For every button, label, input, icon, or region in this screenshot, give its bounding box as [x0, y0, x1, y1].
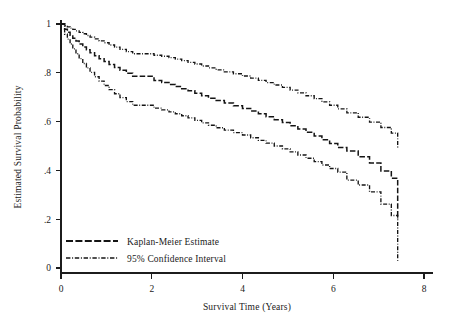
y-tick-label: .6 [44, 117, 51, 127]
y-axis-ticks: 0.2.4.6.81 [44, 19, 61, 273]
legend-label: 95% Confidence Interval [127, 254, 226, 264]
x-tick-label: 4 [240, 284, 245, 294]
survival-curve-figure: 0.2.4.6.81 Estimated Survival Probabilit… [0, 0, 449, 323]
legend-label: Kaplan-Meier Estimate [127, 237, 219, 247]
confidence-interval-curve [61, 24, 398, 148]
x-axis-group: 02468 Survival Time (Years) [59, 273, 433, 313]
x-tick-label: 2 [149, 284, 154, 294]
curve-group [61, 24, 398, 261]
x-tick-label: 6 [331, 284, 336, 294]
chart-legend: Kaplan-Meier Estimate95% Confidence Inte… [66, 237, 226, 264]
y-tick-label: .2 [44, 215, 51, 225]
y-tick-label: 0 [46, 263, 51, 273]
x-axis-ticks: 02468 [59, 273, 427, 294]
y-axis-title: Estimated Survival Probability [13, 85, 23, 208]
x-axis-title: Survival Time (Years) [203, 302, 291, 313]
km-estimate-curve [61, 24, 398, 219]
y-tick-label: .8 [44, 68, 51, 78]
x-tick-label: 8 [422, 284, 427, 294]
y-axis-group: 0.2.4.6.81 Estimated Survival Probabilit… [13, 19, 61, 273]
x-tick-label: 0 [59, 284, 64, 294]
y-tick-label: .4 [44, 166, 51, 176]
y-tick-label: 1 [46, 19, 51, 29]
kaplan-meier-plot: 0.2.4.6.81 Estimated Survival Probabilit… [0, 0, 449, 323]
confidence-interval-curve [61, 24, 398, 261]
